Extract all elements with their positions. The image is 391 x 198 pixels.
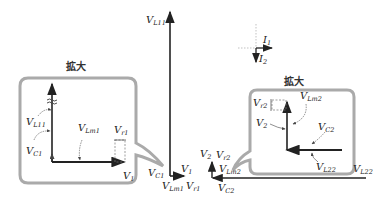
right-zoom-callout: 拡大 Vr2 VLm2 V2 VC2 VL22 [233, 75, 354, 174]
label-vl11-zoom: VL11 [26, 116, 46, 129]
phasor-diagram: 拡大 VL11 VC1 VLm1 Vr1 V1 VL11 VC1 V1 VLm1… [0, 0, 391, 198]
label-vr1-zoom: Vr1 [114, 124, 128, 137]
label-vl22-zoom: VL22 [316, 161, 336, 174]
current-reference: I1 I2 [238, 24, 272, 66]
label-i2: I2 [258, 53, 267, 66]
label-vc2-main: VC2 [218, 182, 234, 195]
label-vlm1-zoom: VLm1 [78, 122, 100, 135]
vc2-leader [312, 132, 325, 144]
vc1-leader [34, 131, 50, 140]
label-vr2-zoom: Vr2 [253, 97, 267, 110]
v2-leader [270, 124, 285, 129]
label-v2-zoom: V2 [256, 117, 267, 130]
vlm2-leader [293, 104, 306, 124]
label-vr2-main: Vr2 [216, 149, 230, 162]
vl11-leader [38, 110, 51, 116]
callout-bubble-right [233, 90, 354, 174]
label-i1: I1 [262, 34, 271, 47]
vr1-box [115, 140, 125, 162]
label-vl11-main: VL11 [146, 14, 166, 27]
left-zoom-callout: 拡大 VL11 VC1 VLm1 Vr1 V1 [20, 60, 163, 183]
label-vc2-zoom: VC2 [318, 121, 334, 134]
vr2-box [272, 100, 286, 110]
label-vl22-main: VL22 [353, 163, 373, 176]
label-vr1-main: Vr1 [186, 180, 200, 193]
right-main-phasor: V2 Vr2 VLm2 VC2 VL22 [200, 148, 373, 195]
label-v1-main: V1 [181, 163, 192, 176]
label-vlm2-zoom: VLm2 [300, 90, 322, 103]
label-vlm1-main: VLm1 [162, 180, 184, 193]
left-zoom-title: 拡大 [66, 60, 86, 72]
label-vc1-main: VC1 [148, 167, 164, 180]
vlm1-leader [79, 140, 82, 160]
label-v1-zoom: V1 [123, 170, 134, 183]
left-main-phasor: VL11 VC1 V1 VLm1 Vr1 [146, 12, 200, 193]
label-vc1-zoom: VC1 [26, 145, 42, 158]
label-v2-main: V2 [200, 148, 211, 161]
right-zoom-title: 拡大 [284, 75, 304, 87]
